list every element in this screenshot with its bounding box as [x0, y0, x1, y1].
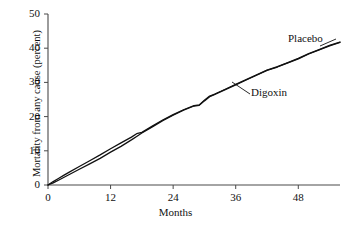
y-axis-title: Mortality from any cause (percent)	[31, 24, 42, 184]
x-axis-title: Months	[0, 206, 351, 218]
y-axis-ticks	[44, 14, 48, 185]
series-label-placebo: Placebo	[288, 32, 323, 44]
digoxin-leader-line	[232, 82, 250, 94]
x-tick-label: 36	[224, 191, 248, 203]
y-tick-label: 50	[20, 7, 40, 19]
x-tick-label: 0	[36, 191, 60, 203]
x-axis-ticks	[48, 185, 298, 189]
x-tick-label: 12	[99, 191, 123, 203]
series-line-digoxin	[48, 42, 340, 185]
series-line-placebo	[48, 42, 340, 185]
x-tick-label: 48	[286, 191, 310, 203]
data-series-group	[48, 42, 340, 185]
mortality-survival-chart: 01020304050 012243648 Mortality from any…	[0, 0, 351, 228]
x-tick-label: 24	[161, 191, 185, 203]
series-label-digoxin: Digoxin	[251, 86, 287, 98]
